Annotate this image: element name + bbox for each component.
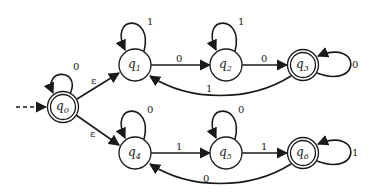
edge-label-q2-q3: 0 <box>261 53 267 64</box>
edge-label-q6-q6: 1 <box>352 147 358 158</box>
state-q0: q0 <box>48 92 79 123</box>
automaton-diagram: 0 ε ε 1 0 1 0 0 1 0 1 0 <box>0 0 375 194</box>
state-sub-q1: 1 <box>136 64 141 73</box>
state-sub-q4: 4 <box>135 152 141 161</box>
edge-q0-q4 <box>76 115 119 145</box>
edge-label-q3-q3: 0 <box>352 59 358 70</box>
state-q1: q1 <box>119 49 151 81</box>
edge-label-q2-q2: 1 <box>238 16 244 27</box>
state-sub-q3: 3 <box>304 64 309 73</box>
state-q5: q5 <box>210 137 242 169</box>
state-q6: q6 <box>288 138 319 169</box>
edge-label-q5-q6: 1 <box>261 141 267 152</box>
edge-q0-q1 <box>77 73 119 99</box>
edge-q4-q4 <box>121 111 145 139</box>
edge-label-q4-q4: 0 <box>147 104 153 115</box>
edge-label-q0-q0: 0 <box>73 61 79 72</box>
states: q0 q1 q2 q3 q4 q5 q6 <box>48 49 319 169</box>
edge-q6-q6 <box>317 140 351 164</box>
state-q3: q3 <box>288 50 319 81</box>
edge-label-q1-q2: 0 <box>176 53 182 64</box>
edge-label-q0-q1: ε <box>91 75 96 86</box>
edge-label-q6-q4: 0 <box>203 173 209 184</box>
edge-label-q0-q4: ε <box>90 128 95 139</box>
edge-label-q1-q1: 1 <box>147 16 153 27</box>
state-sub-q6: 6 <box>304 152 309 161</box>
edge-q1-q1 <box>121 23 145 51</box>
edge-q2-q2 <box>212 23 236 51</box>
edge-q3-q3 <box>317 52 351 76</box>
state-q4: q4 <box>119 137 151 169</box>
edge-q5-q5 <box>212 111 236 139</box>
state-q2: q2 <box>210 49 242 81</box>
state-sub-q0: 0 <box>64 106 69 115</box>
state-sub-q5: 5 <box>227 152 232 161</box>
edge-label-q4-q5: 1 <box>176 141 182 152</box>
edge-label-q3-q1: 1 <box>206 83 212 94</box>
state-sub-q2: 2 <box>226 64 232 73</box>
edge-label-q5-q5: 0 <box>238 104 244 115</box>
